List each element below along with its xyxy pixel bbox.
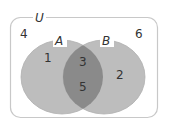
b-only-value: 2 bbox=[116, 68, 124, 82]
set-a-label: A bbox=[54, 34, 63, 48]
set-b-label: B bbox=[102, 34, 110, 48]
intersection-value-bottom: 5 bbox=[79, 80, 87, 94]
a-only-value: 1 bbox=[44, 51, 52, 65]
intersection-value-top: 3 bbox=[79, 55, 87, 69]
universe-label: U bbox=[35, 11, 44, 25]
outside-right-value: 6 bbox=[135, 27, 143, 41]
outside-left-value: 4 bbox=[20, 27, 28, 41]
venn-diagram: U A B 4 6 1 2 3 5 bbox=[0, 0, 169, 126]
